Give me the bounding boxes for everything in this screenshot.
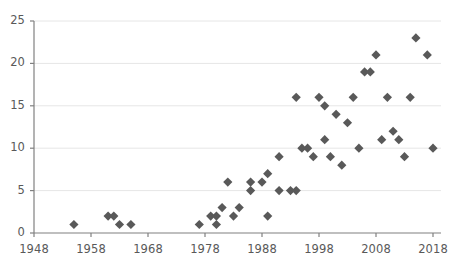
data-point-marker — [292, 93, 301, 102]
data-point-marker — [303, 144, 312, 153]
y-axis-tick-label: 0 — [0, 227, 25, 239]
data-point-marker — [343, 118, 352, 127]
data-point-marker — [126, 220, 135, 229]
gridlines — [34, 21, 441, 191]
scatter-chart: 0510152025194819581968197819881998200820… — [0, 0, 454, 268]
data-point-marker — [406, 93, 415, 102]
x-axis-tick-label: 2018 — [403, 244, 454, 256]
data-points — [69, 33, 437, 229]
data-point-marker — [383, 93, 392, 102]
data-point-marker — [366, 67, 375, 76]
data-point-marker — [115, 220, 124, 229]
y-axis-tick-label: 5 — [0, 185, 25, 197]
data-point-marker — [195, 220, 204, 229]
data-point-marker — [246, 178, 255, 187]
data-point-marker — [257, 178, 266, 187]
data-point-marker — [275, 152, 284, 161]
data-point-marker — [314, 93, 323, 102]
data-point-marker — [423, 50, 432, 59]
data-point-marker — [428, 144, 437, 153]
data-point-marker — [332, 110, 341, 119]
y-axis-tick-label: 10 — [0, 142, 25, 154]
data-point-marker — [411, 33, 420, 42]
data-point-marker — [320, 135, 329, 144]
axes — [34, 21, 441, 233]
data-point-marker — [349, 93, 358, 102]
plot-area — [0, 0, 454, 268]
data-point-marker — [292, 186, 301, 195]
x-axis-tick-label: 1988 — [232, 244, 292, 256]
data-point-marker — [389, 127, 398, 136]
data-point-marker — [337, 161, 346, 170]
data-point-marker — [235, 203, 244, 212]
y-axis-tick-label: 15 — [0, 100, 25, 112]
data-point-marker — [263, 211, 272, 220]
y-axis-tick-label: 25 — [0, 15, 25, 27]
x-axis-tick-label: 1948 — [4, 244, 64, 256]
x-axis-tick-label: 1958 — [61, 244, 121, 256]
data-point-marker — [229, 211, 238, 220]
data-point-marker — [263, 169, 272, 178]
data-point-marker — [212, 211, 221, 220]
data-point-marker — [371, 50, 380, 59]
data-point-marker — [109, 211, 118, 220]
tick-marks — [30, 21, 433, 237]
data-point-marker — [309, 152, 318, 161]
data-point-marker — [275, 186, 284, 195]
data-point-marker — [223, 178, 232, 187]
data-point-marker — [326, 152, 335, 161]
data-point-marker — [354, 144, 363, 153]
x-axis-tick-label: 2008 — [346, 244, 406, 256]
data-point-marker — [377, 135, 386, 144]
data-point-marker — [69, 220, 78, 229]
x-axis-tick-label: 1978 — [175, 244, 235, 256]
data-point-marker — [400, 152, 409, 161]
x-axis-tick-label: 1968 — [118, 244, 178, 256]
data-point-marker — [320, 101, 329, 110]
y-axis-tick-label: 20 — [0, 57, 25, 69]
x-axis-tick-label: 1998 — [289, 244, 349, 256]
data-point-marker — [218, 203, 227, 212]
data-point-marker — [394, 135, 403, 144]
data-point-marker — [212, 220, 221, 229]
data-point-marker — [246, 186, 255, 195]
